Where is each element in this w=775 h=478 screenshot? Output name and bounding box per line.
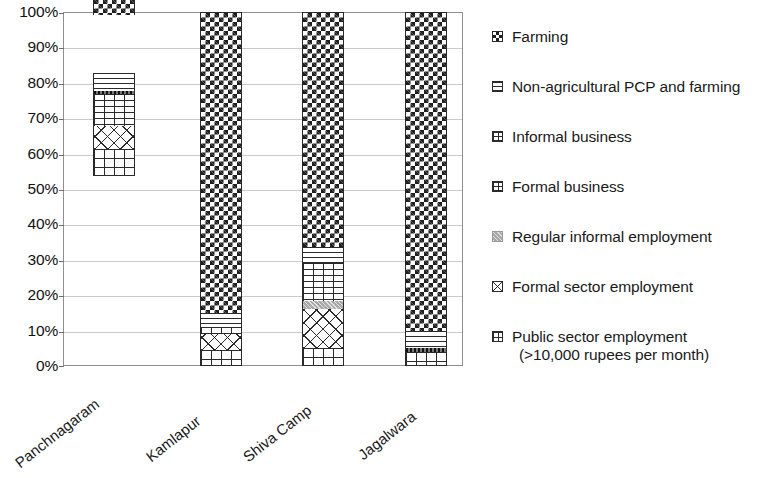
legend-swatch-horizontal-lines-icon	[492, 81, 503, 92]
legend-item-formal-business[interactable]: Formal business	[492, 178, 624, 196]
legend-swatch-brick-icon	[492, 131, 503, 142]
percentage-stacked-bar-chart: 100% 90% 80% 70% 60% 50% 40% 30% 20% 10%…	[0, 0, 775, 478]
segment-panchnagaram-public-sector-employment[interactable]	[93, 149, 135, 176]
y-tick-label-80: 80%	[0, 75, 58, 91]
segment-kamlapur-public-sector-employment[interactable]	[200, 350, 242, 366]
segment-shiva-camp-farming[interactable]	[302, 12, 344, 247]
segment-kamlapur-farming[interactable]	[200, 12, 242, 313]
y-axis: 100% 90% 80% 70% 60% 50% 40% 30% 20% 10%…	[0, 0, 58, 378]
legend-item-regular-informal-employment[interactable]: Regular informal employment	[492, 228, 712, 246]
segment-shiva-camp-public-sector-employment[interactable]	[302, 348, 344, 366]
y-tick-label-90: 90%	[0, 39, 58, 55]
legend-label-public-sector-employment: Public sector employment(>10,000 rupees …	[512, 328, 709, 364]
legend-item-public-sector-employment[interactable]: Public sector employment(>10,000 rupees …	[492, 328, 709, 364]
legend-item-non-agricultural-pcp-and-farming[interactable]: Non-agricultural PCP and farming	[492, 78, 740, 96]
segment-shiva-camp-formal-sector-employment[interactable]	[302, 309, 344, 348]
segment-panchnagaram-informal-business[interactable]	[93, 94, 135, 126]
segment-shiva-camp-informal-business[interactable]	[302, 263, 344, 300]
bar-shiva-camp[interactable]	[302, 12, 344, 366]
legend-swatch-grid-icon	[492, 331, 503, 342]
x-axis: Panchnagaram Kamlapur Shiva Camp Jagalwa…	[0, 366, 470, 478]
segment-jagalwara-non-agricultural-pcp-and-farming[interactable]	[405, 331, 447, 349]
legend-swatch-brick-offset-icon	[492, 181, 503, 192]
segment-jagalwara-farming[interactable]	[405, 12, 447, 331]
y-tick-label-60: 60%	[0, 146, 58, 162]
legend-label-regular-informal-employment: Regular informal employment	[512, 228, 712, 246]
legend-item-informal-business[interactable]: Informal business	[492, 128, 632, 146]
segment-panchnagaram-farming[interactable]	[93, 0, 135, 15]
legend-item-formal-sector-employment[interactable]: Formal sector employment	[492, 278, 693, 296]
legend-label-informal-business: Informal business	[512, 128, 632, 146]
y-tick-label-10: 10%	[0, 323, 58, 339]
legend-label-non-agricultural-pcp-and-farming: Non-agricultural PCP and farming	[512, 78, 740, 96]
legend-swatch-checkerboard-icon	[492, 31, 503, 42]
bars-layer	[63, 12, 463, 366]
legend-label-public-sector-employment-line1: Public sector employment	[512, 328, 687, 345]
x-label-shiva-camp: Shiva Camp	[240, 401, 315, 465]
bar-kamlapur[interactable]	[200, 12, 242, 366]
segment-kamlapur-informal-business[interactable]	[200, 327, 242, 334]
y-tick-label-70: 70%	[0, 110, 58, 126]
bar-panchnagaram[interactable]	[93, 12, 135, 366]
segment-shiva-camp-regular-informal-employment[interactable]	[302, 301, 344, 310]
legend-label-formal-business: Formal business	[512, 178, 624, 196]
segment-panchnagaram-non-agricultural-pcp-and-farming[interactable]	[93, 73, 135, 91]
y-tick-label-100: 100%	[0, 4, 58, 20]
segment-panchnagaram-formal-sector-employment[interactable]	[93, 126, 135, 149]
segment-jagalwara-public-sector-employment[interactable]	[405, 352, 447, 366]
y-tick-label-40: 40%	[0, 216, 58, 232]
legend-swatch-diamond-icon	[492, 281, 503, 292]
x-label-panchnagaram: Panchnagaram	[12, 395, 103, 471]
legend-swatch-grey-solid-icon	[492, 231, 503, 242]
legend-label-formal-sector-employment: Formal sector employment	[512, 278, 693, 296]
y-tick-label-20: 20%	[0, 287, 58, 303]
y-tick-label-30: 30%	[0, 252, 58, 268]
legend-item-farming[interactable]: Farming	[492, 28, 568, 46]
x-label-kamlapur: Kamlapur	[143, 412, 204, 465]
segment-shiva-camp-non-agricultural-pcp-and-farming[interactable]	[302, 247, 344, 263]
legend-label-public-sector-employment-line2: (>10,000 rupees per month)	[512, 346, 709, 364]
segment-kamlapur-non-agricultural-pcp-and-farming[interactable]	[200, 313, 242, 327]
y-tick-label-50: 50%	[0, 181, 58, 197]
x-label-jagalwara: Jagalwara	[355, 408, 419, 463]
bar-jagalwara[interactable]	[405, 12, 447, 366]
legend-label-farming: Farming	[512, 28, 568, 46]
segment-kamlapur-formal-sector-employment[interactable]	[200, 334, 242, 350]
